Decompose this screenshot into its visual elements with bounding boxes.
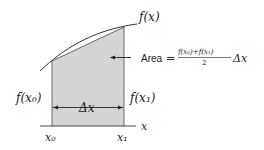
delta-x-factor: Δx (232, 52, 248, 65)
area-word: Area (141, 53, 163, 64)
x1-label: x₁ (117, 131, 128, 144)
x-axis-label: x (141, 120, 148, 133)
curve-label: f(x) (138, 10, 160, 24)
left-height-label: f(x₀) (15, 91, 42, 105)
equals-sign: = (166, 52, 175, 65)
x0-label: x₀ (45, 131, 56, 144)
fraction-denominator: 2 (202, 59, 206, 67)
right-height-label: f(x₁) (129, 91, 156, 105)
fraction-numerator: f(x₀)+f(x₁) (177, 48, 214, 56)
width-label: Δx (78, 101, 95, 115)
trapezoid-diagram: f(x) f(x₀) f(x₁) Δx x x₀ x₁ Area = f(x₀)… (0, 0, 264, 150)
